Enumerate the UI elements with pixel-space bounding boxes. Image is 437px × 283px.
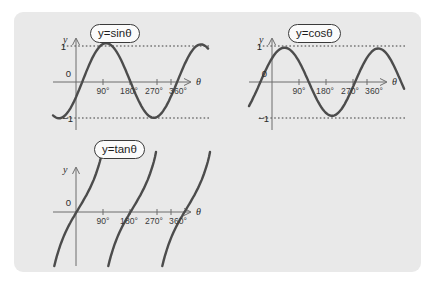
figure-root: y=sinθ y 1 0 xyxy=(0,0,437,283)
x-tick-label-270: 270° xyxy=(145,216,163,226)
tangent-curve-branch-2 xyxy=(108,152,156,266)
y-tick-label-0: 0 xyxy=(66,197,71,208)
chart-cosine-label: y=cosθ xyxy=(288,24,341,43)
x-tick-label-360: 360° xyxy=(169,216,187,226)
chart-cosine: y=cosθ y 1 0 −1 90° 180° 270° xyxy=(246,22,416,134)
y-tick-label-0: 0 xyxy=(262,68,267,79)
x-axis-label: θ xyxy=(196,206,201,217)
y-axis-label: y xyxy=(62,164,68,175)
chart-tangent-plot: y 0 90° 180° 270° 360° θ xyxy=(50,140,230,268)
y-tick-label-1: 1 xyxy=(61,41,66,52)
chart-sine: y=sinθ y 1 0 xyxy=(50,22,220,134)
x-tick-label-270: 270° xyxy=(341,86,359,96)
x-tick-label-90: 90° xyxy=(293,86,306,96)
tangent-curve-branch-3 xyxy=(162,152,210,266)
x-axis-label: θ xyxy=(392,76,397,87)
y-tick-label-minus1: −1 xyxy=(258,113,269,124)
x-tick-label-180: 180° xyxy=(120,86,138,96)
chart-sine-label: y=sinθ xyxy=(90,24,140,43)
chart-tangent: y=tanθ y 0 90° 180° 270° xyxy=(50,140,230,268)
x-tick-label-90: 90° xyxy=(97,86,110,96)
x-tick-label-180: 180° xyxy=(120,216,138,226)
x-tick-label-360: 360° xyxy=(365,86,383,96)
y-tick-label-0: 0 xyxy=(66,68,71,79)
chart-tangent-label: y=tanθ xyxy=(94,140,145,159)
figure-panel: y=sinθ y 1 0 xyxy=(14,12,421,272)
x-tick-label-90: 90° xyxy=(97,216,110,226)
y-tick-label-1: 1 xyxy=(257,41,262,52)
y-tick-label-minus1: −1 xyxy=(62,113,73,124)
x-axis-label: θ xyxy=(196,76,201,87)
x-tick-label-360: 360° xyxy=(169,86,187,96)
x-tick-label-270: 270° xyxy=(145,86,163,96)
tangent-curve-branch-1 xyxy=(54,152,102,266)
x-tick-label-180: 180° xyxy=(316,86,334,96)
